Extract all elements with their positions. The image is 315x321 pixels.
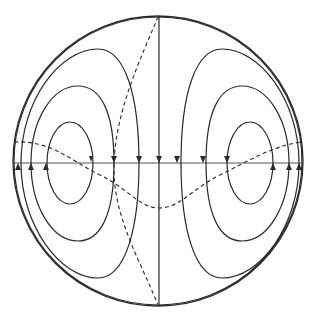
- arrow-down-icon: [111, 156, 117, 163]
- arrow-up-icon: [43, 163, 49, 170]
- arrow-up-icon: [28, 163, 34, 170]
- arrow-down-icon: [224, 156, 230, 163]
- arrow-down-icon: [156, 156, 162, 163]
- arrow-down-icon: [136, 156, 142, 163]
- arrow-up-icon: [15, 163, 21, 170]
- arrow-down-icon: [174, 156, 180, 163]
- arrow-down-icon: [200, 156, 206, 163]
- left-cell-streamlines: [17, 16, 158, 306]
- arrow-up-icon: [286, 163, 292, 170]
- arrow-up-icon: [296, 163, 302, 170]
- streamline-diagram: [0, 0, 315, 321]
- dashed-vertical-curve: [114, 17, 158, 305]
- arrow-up-icon: [270, 163, 276, 170]
